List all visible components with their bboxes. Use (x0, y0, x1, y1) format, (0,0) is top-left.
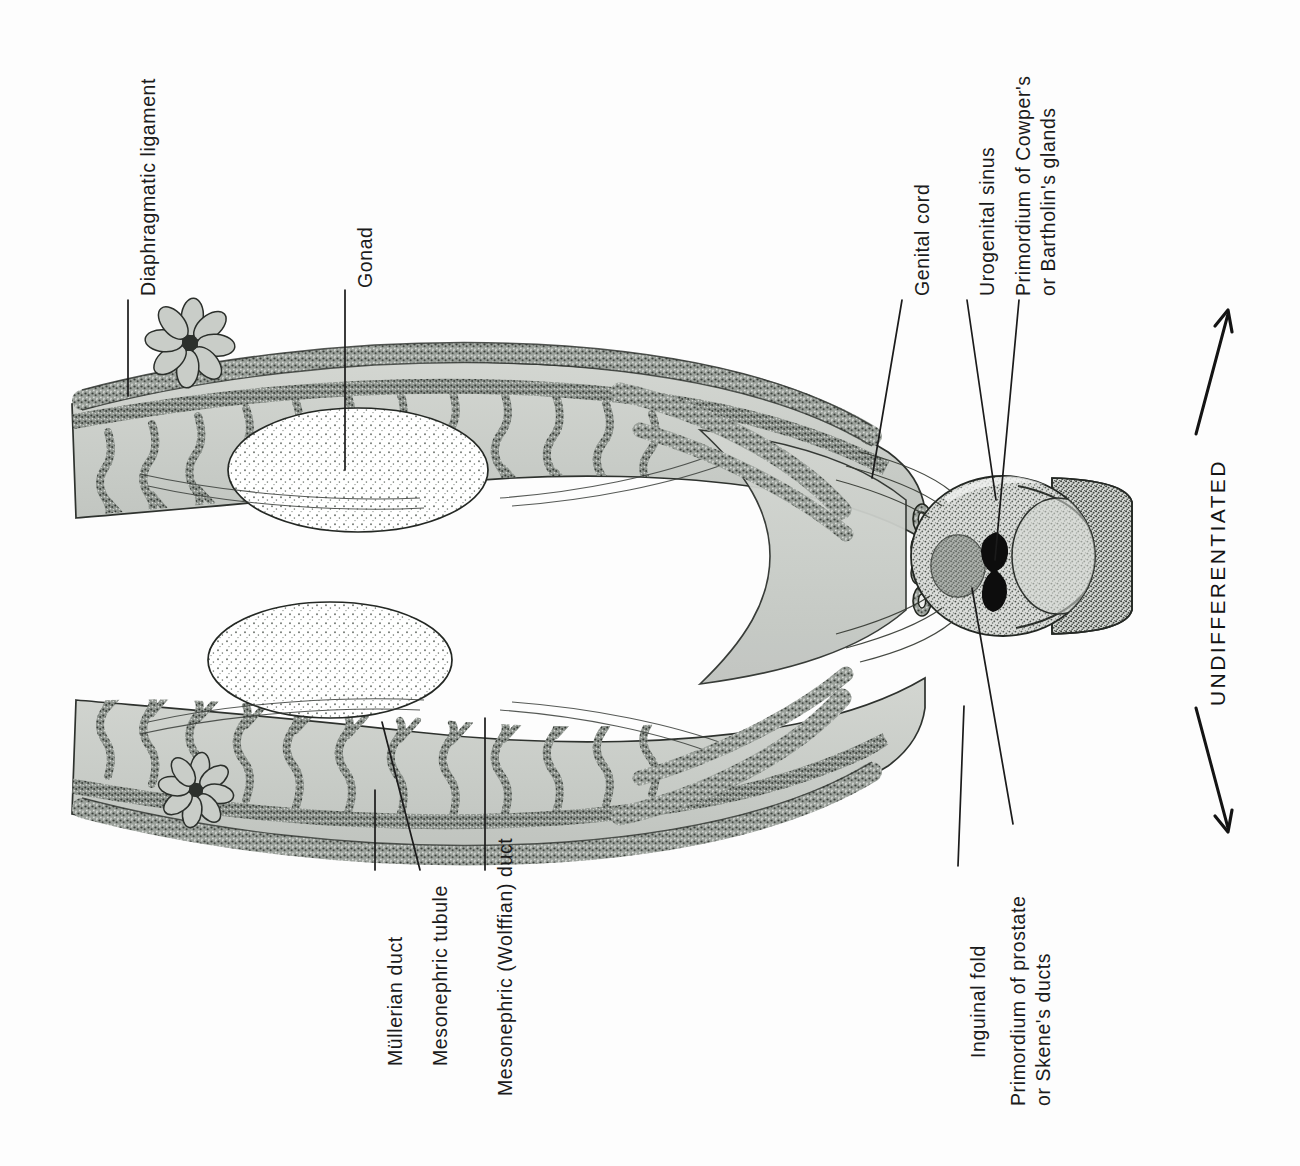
gonad-upper (228, 408, 488, 532)
arrow-up-icon (1196, 310, 1232, 434)
label-diaphragmatic-ligament: Diaphragmatic ligament (136, 78, 161, 296)
label-cowper-bartholin: Primordium of Cowper's or Bartholin's gl… (1011, 75, 1062, 296)
label-inguinal-fold-text: Inguinal fold (966, 945, 991, 1058)
label-urogenital-sinus: Urogenital sinus (975, 147, 1000, 296)
label-mesonephric-tubule: Mesonephric tubule (428, 885, 453, 1066)
label-diaphragmatic-ligament-text: Diaphragmatic ligament (136, 78, 161, 296)
label-prostate-line1: Primordium of prostate (1006, 896, 1031, 1106)
stage-caption: UNDIFFERENTIATED (1206, 459, 1230, 706)
arrow-down-icon (1196, 708, 1232, 832)
label-mesonephric-tubule-text: Mesonephric tubule (428, 885, 453, 1066)
label-wolffian-duct-text: Mesonephric (Wolffian) duct (493, 838, 518, 1096)
leader-inguinal-fold (958, 706, 964, 866)
label-inguinal-fold: Inguinal fold (966, 945, 991, 1058)
anatomical-plate: Diaphragmatic ligament Gonad Genital cor… (0, 0, 1300, 1166)
label-urogenital-sinus-text: Urogenital sinus (975, 147, 1000, 296)
label-prostate-line2: or Skene's ducts (1031, 896, 1056, 1106)
stage-caption-text: UNDIFFERENTIATED (1206, 459, 1229, 706)
label-cowper-line1: Primordium of Cowper's (1011, 75, 1036, 296)
diagram-artwork (0, 0, 1300, 1166)
label-mullerian-duct-text: Müllerian duct (383, 936, 408, 1066)
label-mullerian-duct: Müllerian duct (383, 936, 408, 1066)
label-genital-cord-text: Genital cord (910, 184, 935, 296)
label-prostate-skene: Primordium of prostate or Skene's ducts (1006, 896, 1057, 1106)
cowper-bartholin-primordium (931, 535, 985, 597)
leader-urogenital-sinus (967, 300, 996, 500)
label-wolffian-duct: Mesonephric (Wolffian) duct (493, 838, 518, 1096)
label-gonad: Gonad (353, 226, 378, 288)
label-gonad-text: Gonad (353, 226, 378, 288)
label-cowper-line2: or Bartholin's glands (1036, 75, 1061, 296)
label-genital-cord: Genital cord (910, 184, 935, 296)
gonad-lower (208, 602, 452, 718)
